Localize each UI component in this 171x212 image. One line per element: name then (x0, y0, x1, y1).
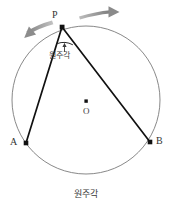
point-marker-p (60, 25, 65, 30)
chord-pa (26, 27, 62, 143)
point-label-p: P (52, 10, 58, 20)
point-label-b: B (156, 136, 163, 146)
point-marker-b (148, 140, 153, 145)
figure-caption: 원주각 (0, 190, 171, 199)
point-label-a: A (10, 137, 17, 147)
inscribed-angle-annotation: 원주각 (49, 52, 70, 60)
point-label-o: O (83, 107, 90, 116)
inscribed-angle-figure: P A B O 원주각 원주각 (0, 0, 171, 212)
arrow-right-icon (79, 6, 120, 19)
point-marker-a (24, 141, 29, 146)
point-marker-o (84, 99, 87, 102)
chord-pb (62, 27, 150, 142)
arrow-left-icon (24, 21, 53, 38)
